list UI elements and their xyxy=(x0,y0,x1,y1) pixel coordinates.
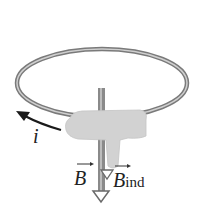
current-label: i xyxy=(33,126,39,146)
induced-field-subscript: ind xyxy=(125,174,144,190)
vector-arrow-b xyxy=(77,162,94,166)
right-hand-icon xyxy=(66,110,147,168)
induced-field-label: Bind xyxy=(113,170,144,190)
field-label: B xyxy=(74,168,86,188)
diagram-canvas xyxy=(0,0,205,204)
induced-field-base: B xyxy=(113,169,125,191)
